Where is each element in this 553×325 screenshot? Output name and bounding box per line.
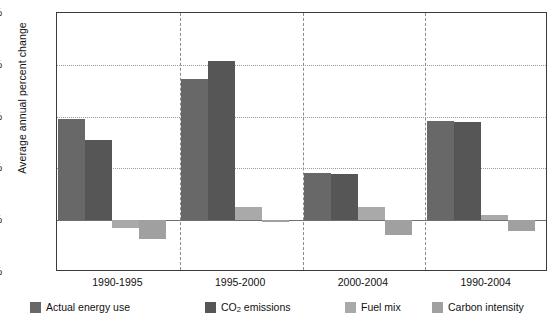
y-tick-label: 0.5% — [0, 161, 2, 173]
legend-swatch-icon — [205, 302, 216, 313]
legend-label: CO2 emissions — [221, 301, 291, 314]
legend-label: Actual energy use — [46, 301, 130, 313]
bar — [112, 220, 139, 228]
legend-item[interactable]: CO2 emissions — [205, 301, 291, 314]
gridline — [57, 117, 546, 118]
bar — [58, 119, 85, 221]
x-tick-label: 1995-2000 — [175, 276, 305, 288]
bar — [139, 220, 166, 239]
y-tick-label: 2.0% — [0, 6, 2, 18]
legend-item[interactable]: Actual energy use — [30, 301, 130, 313]
x-tick-label: 2000-2004 — [298, 276, 428, 288]
legend-item[interactable]: Fuel mix — [345, 301, 401, 313]
chart-legend: Actual energy useCO2 emissionsFuel mixCa… — [0, 301, 553, 321]
bar — [235, 207, 262, 220]
y-axis-title: Average annual percent change — [16, 0, 28, 198]
group-separator — [303, 13, 304, 270]
bar — [208, 61, 235, 221]
bar — [427, 121, 454, 220]
bar — [358, 207, 385, 220]
legend-swatch-icon — [345, 302, 356, 313]
legend-swatch-icon — [30, 302, 41, 313]
y-tick-label: 1.5% — [0, 58, 2, 70]
chart-page: Average annual percent change -0.5%0.0%0… — [0, 0, 553, 325]
x-tick-label: 1990-2004 — [421, 276, 551, 288]
bar — [481, 215, 508, 220]
bar — [331, 174, 358, 221]
plot-inner — [57, 13, 546, 270]
bar — [262, 220, 289, 222]
bar — [508, 220, 535, 230]
y-tick-label: -0.5% — [0, 265, 2, 277]
y-tick-label: 0.0% — [0, 213, 2, 225]
bar — [85, 140, 112, 220]
bar — [181, 79, 208, 220]
bar — [454, 122, 481, 220]
legend-label: Fuel mix — [361, 301, 401, 313]
y-tick-label: 1.0% — [0, 110, 2, 122]
legend-label: Carbon intensity — [448, 301, 524, 313]
plot-area — [56, 12, 547, 271]
bar — [385, 220, 412, 235]
bar — [304, 173, 331, 221]
legend-swatch-icon — [432, 302, 443, 313]
x-tick-label: 1990-1995 — [52, 276, 182, 288]
legend-item[interactable]: Carbon intensity — [432, 301, 524, 313]
gridline — [57, 65, 546, 66]
